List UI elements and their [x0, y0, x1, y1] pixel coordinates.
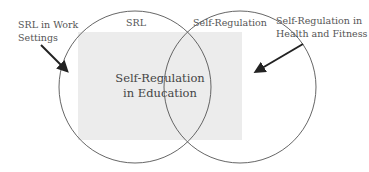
intersection-label-line1: Self-Regulation — [115, 71, 205, 85]
left-callout-line1: SRL in Work — [18, 19, 79, 30]
srl-circle-label: SRL — [126, 17, 147, 28]
right-callout-line1: Self-Regulation in — [276, 15, 362, 26]
intersection-label-line2: in Education — [123, 86, 197, 100]
left-callout-arrow — [41, 45, 66, 70]
left-callout-line2: Settings — [18, 32, 58, 43]
self-regulation-circle-label: Self-Regulation — [193, 17, 267, 28]
right-callout-arrow — [257, 44, 303, 71]
right-callout-line2: Health and Fitness — [276, 28, 368, 39]
venn-diagram: ​ SRL Self-Regulation Self-Regulation in… — [0, 0, 369, 172]
